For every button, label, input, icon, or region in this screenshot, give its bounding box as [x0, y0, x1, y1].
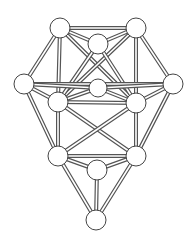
atom-top-right	[126, 18, 146, 38]
atoms-layer	[14, 18, 183, 230]
bond-line	[58, 102, 136, 103]
atom-middle-left	[48, 92, 68, 112]
bonds-layer	[24, 28, 173, 220]
atom-left	[14, 74, 34, 94]
atom-lower-middle	[87, 160, 107, 180]
atom-lower-right	[126, 146, 146, 166]
atom-lower-left	[48, 146, 68, 166]
atom-middle-right	[126, 93, 146, 113]
atom-center	[89, 79, 107, 97]
atom-right	[163, 74, 183, 94]
atom-top-left	[50, 18, 70, 38]
atom-top-middle	[88, 34, 108, 54]
cluster-diagram	[0, 0, 191, 247]
bond-A-G	[58, 28, 60, 102]
atom-bottom	[86, 210, 106, 230]
bond-G-H	[58, 102, 136, 103]
